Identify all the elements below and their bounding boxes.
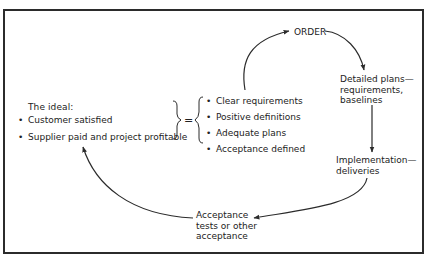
opening-brace-icon — [195, 97, 203, 143]
arrow-acceptance-to-ideal — [83, 147, 193, 218]
arrow-order-to-plans — [325, 31, 364, 70]
arrow-prereq-to-order — [244, 31, 289, 90]
diagram-connectors — [0, 0, 429, 260]
closing-brace-icon — [173, 101, 181, 139]
arrow-implementation-to-acceptance — [254, 178, 367, 218]
